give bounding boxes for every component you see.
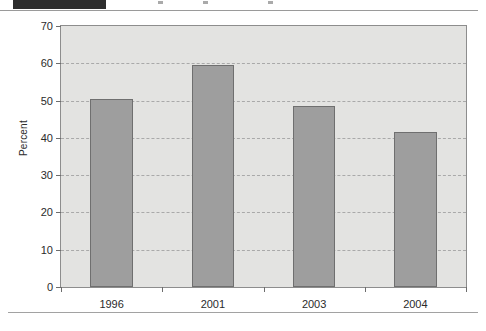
y-axis-label: 50 — [41, 95, 53, 106]
gridline — [61, 63, 466, 64]
y-axis-tick — [56, 63, 61, 64]
scan-artifact-mark — [268, 1, 273, 4]
page-top-strip — [0, 0, 486, 14]
y-axis-tick — [56, 250, 61, 251]
y-axis-title: Percent — [18, 120, 29, 156]
scan-artifact-mark — [158, 1, 163, 4]
y-axis-label: 70 — [41, 21, 53, 32]
redacted-header-bar — [13, 0, 106, 9]
plot-area: 010203040506070 1996200120032004 — [60, 25, 467, 288]
bar-1996 — [90, 99, 133, 287]
y-axis-label: 60 — [41, 58, 53, 69]
bar-chart-figure: Percent 010203040506070 1996200120032004 — [0, 14, 486, 331]
y-axis-tick — [56, 138, 61, 139]
y-axis-label: 30 — [41, 170, 53, 181]
y-axis-tick — [56, 175, 61, 176]
x-axis-label-1996: 1996 — [99, 299, 123, 310]
x-axis-tick — [365, 287, 366, 292]
y-axis-tick — [56, 212, 61, 213]
y-axis-tick — [56, 101, 61, 102]
y-axis-label: 40 — [41, 132, 53, 143]
x-axis-label-2003: 2003 — [302, 299, 326, 310]
bar-2003 — [293, 106, 336, 287]
x-axis-tick — [466, 287, 467, 292]
x-axis-tick — [162, 287, 163, 292]
x-axis-tick — [61, 287, 62, 292]
bar-2004 — [394, 132, 437, 287]
x-axis-label-2004: 2004 — [403, 299, 427, 310]
y-axis-tick — [56, 26, 61, 27]
y-axis-label: 0 — [47, 282, 53, 293]
y-axis-label: 10 — [41, 244, 53, 255]
header-divider-rule — [0, 10, 478, 11]
y-axis-label: 20 — [41, 207, 53, 218]
bar-2001 — [192, 65, 235, 287]
scan-artifact-mark — [203, 1, 208, 4]
x-axis-label-2001: 2001 — [201, 299, 225, 310]
page-footer-rule — [8, 312, 478, 313]
x-axis-tick — [264, 287, 265, 292]
